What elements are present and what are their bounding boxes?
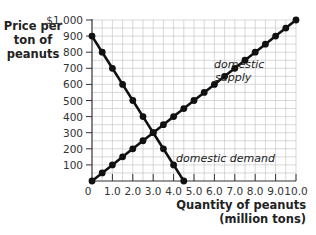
svg-text:500: 500 <box>63 95 83 107</box>
svg-text:10.0: 10.0 <box>284 185 307 197</box>
x-axis-label: Quantity of peanuts (million tons) <box>176 198 306 226</box>
svg-text:100: 100 <box>63 159 83 171</box>
svg-text:600: 600 <box>63 78 83 90</box>
svg-text:800: 800 <box>63 46 83 58</box>
svg-text:6.0: 6.0 <box>206 185 223 197</box>
svg-text:3.0: 3.0 <box>145 185 162 197</box>
svg-text:8.0: 8.0 <box>247 185 264 197</box>
y-axis-ticks: $1,000900800700600500400300200100 <box>46 14 92 171</box>
svg-text:900: 900 <box>63 30 83 42</box>
svg-text:400: 400 <box>63 111 83 123</box>
x-axis-label-line: Quantity of peanuts <box>176 198 306 212</box>
svg-text:700: 700 <box>63 62 83 74</box>
supply-label-line: domestic <box>214 58 264 71</box>
svg-text:9.0: 9.0 <box>267 185 284 197</box>
svg-text:0: 0 <box>85 185 92 197</box>
svg-text:300: 300 <box>63 127 83 139</box>
svg-text:1.0: 1.0 <box>104 185 121 197</box>
svg-text:4.0: 4.0 <box>165 185 182 197</box>
svg-text:$1,000: $1,000 <box>46 14 83 26</box>
demand-curve-label: domestic demand <box>176 152 275 165</box>
svg-text:2.0: 2.0 <box>124 185 141 197</box>
x-axis-label-line: (million tons) <box>176 212 306 226</box>
svg-text:5.0: 5.0 <box>186 185 203 197</box>
svg-text:7.0: 7.0 <box>226 185 243 197</box>
x-axis-ticks: 01.02.03.04.05.06.07.08.09.010.0 <box>85 174 308 197</box>
supply-curve-label: domestic supply <box>214 58 264 84</box>
supply-label-line: supply <box>214 71 264 84</box>
svg-text:200: 200 <box>63 143 83 155</box>
